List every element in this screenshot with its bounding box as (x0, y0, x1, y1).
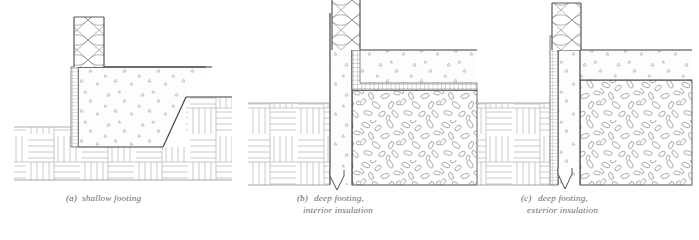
panel-b-break-line (330, 170, 344, 190)
panel-c-deep-footing-exterior: (c) deep footing, exterior insulation (478, 3, 692, 215)
panel-c-caption-line1: deep footing, (538, 193, 588, 203)
panel-b-caption-letter: (b) (297, 193, 308, 203)
panel-b-gravel-fill (352, 90, 477, 185)
figure-root: (a) shallow footing (0, 0, 699, 240)
panel-b-deep-footing-interior: (b) deep footing, interior insulation (248, 0, 477, 215)
panel-c-framed-wall (552, 3, 581, 50)
panel-a-caption-letter: (a) (66, 193, 77, 203)
panel-b-caption-line2: interior insulation (303, 205, 373, 215)
panel-c-caption-line2: exterior insulation (527, 205, 598, 215)
panel-c-earth-fill (478, 103, 550, 185)
panel-c-break-line (558, 168, 572, 189)
panel-c-caption-letter: (c) (521, 193, 531, 203)
panel-c-gravel-fill (580, 80, 692, 185)
panel-b-caption-line1: deep footing, (314, 193, 364, 203)
panel-a-rigid-insulation (71, 67, 79, 147)
panel-a-shallow-footing: (a) shallow footing (14, 17, 232, 203)
foundation-sections-drawing: (a) shallow footing (0, 0, 699, 240)
panel-b-earth-fill (248, 103, 330, 185)
panel-c-rigid-insulation (550, 36, 558, 185)
panel-b-framed-wall (332, 0, 360, 50)
panel-a-framed-wall (74, 17, 104, 67)
panel-a-caption-line1: shallow footing (82, 193, 141, 203)
